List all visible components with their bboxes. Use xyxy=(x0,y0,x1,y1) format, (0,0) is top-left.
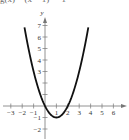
x-tick-label: 5 xyxy=(100,109,104,117)
y-tick-label: 6 xyxy=(38,34,42,42)
x-tick-label: 6 xyxy=(112,109,116,117)
x-tick-label: 1 xyxy=(55,109,59,117)
y-axis-arrow-icon xyxy=(43,17,47,23)
x-axis-arrow-icon xyxy=(121,104,127,108)
y-tick-label: 3 xyxy=(38,68,42,76)
y-tick-label: 5 xyxy=(38,45,42,53)
y-tick-label: 4 xyxy=(38,57,42,65)
x-tick-label: 3 xyxy=(77,109,81,117)
y-axis-label: y xyxy=(39,9,44,17)
x-tick-label: −2 xyxy=(18,109,26,117)
x-tick-label: −3 xyxy=(7,109,15,117)
y-tick-label: 7 xyxy=(38,22,42,30)
function-graph: y−3−2−1123456−2−134567 xyxy=(0,0,129,140)
x-tick-label: 2 xyxy=(66,109,70,117)
y-tick-label: −2 xyxy=(34,126,42,134)
y-tick-label: −1 xyxy=(34,114,42,122)
x-tick-label: 4 xyxy=(89,109,93,117)
